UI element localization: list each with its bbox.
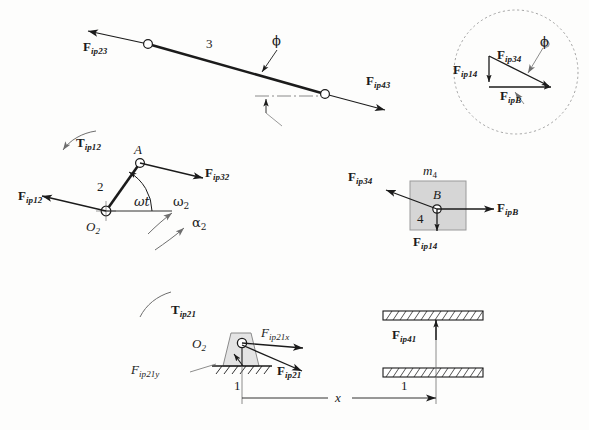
ground-left-link-number-label: 1 [234,379,241,392]
alpha2-arc [155,228,184,250]
link-3-bar [148,44,325,94]
dimension-x-label: x [335,391,341,404]
ground-left-force-x-label: Fip21x [261,326,289,342]
ground-left-pivot-label: O2 [192,337,206,353]
link-3-force-right-arrow [325,94,385,110]
crank-alpha2-label: α2 [192,216,207,232]
ground-right-force-up-label: Fip41 [392,328,416,344]
inset-phi-leader [528,48,543,73]
inset-force-ipB-label: FipB [500,89,521,105]
link-3-joint-a [144,40,153,49]
slider-link-number-label: 4 [417,212,424,225]
inset-phi-label: ϕ [540,35,549,48]
crank-force-joint-label: Fip32 [205,166,229,182]
link-3-phi-label: ϕ [272,34,281,47]
slider-force-left-label: Fip34 [348,170,372,186]
link-3-group [88,31,385,126]
slider-mass-label: m4 [423,164,437,180]
ground-force-y-leader [190,364,216,372]
link-3-force-right-label: Fip43 [366,74,390,90]
crank-omega2-label: ω2 [173,195,189,211]
crank-pivot-o2-label: O2 [86,220,100,236]
angle-tick-leader [266,113,282,126]
ground-left-group [140,292,303,404]
free-body-diagram-figure: Fip23 3 ϕ Fip43 Fip14 Fip34 FipB ϕ Tip12… [0,0,589,430]
inset-force-ip34-label: Fip34 [497,48,521,64]
inset-force-ip14-label: Fip14 [453,63,477,79]
crank-link-number-label: 2 [97,180,104,193]
link-3-number-label: 3 [206,37,213,50]
link-2-force-pivot-arrow [42,196,106,211]
ground-left-hatching [216,366,270,374]
torque-ip21-arc [140,292,171,317]
link-2-crank-group [42,131,203,250]
crank-torque-label: Tip12 [76,136,101,152]
link-3-force-left-label: Fip23 [83,40,107,56]
omega2-arc [148,213,172,234]
ground-left-force-resultant-label: Fip21 [277,364,301,380]
link-3-joint-b [321,90,330,99]
ground-right-link-number-label: 1 [401,379,408,392]
slider-force-down-label: Fip14 [413,235,437,251]
ground-right-group [383,311,483,404]
crank-force-pivot-label: Fip12 [18,189,42,205]
ground-left-force-y-label: Fip21y [131,363,159,379]
crank-joint-a-label: A [134,143,142,156]
crank-omega-t-label: ωt [134,195,150,208]
slider-center-label: B [433,188,441,201]
phi-leader-line [262,50,277,72]
ground-left-torque-label: Tip21 [171,303,196,319]
link-2-force-joint-arrow [140,163,203,178]
slider-force-right-label: FipB [497,201,518,217]
